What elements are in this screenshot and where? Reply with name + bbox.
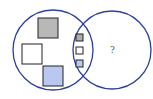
small-gray-square [76, 34, 83, 41]
unknown-question-mark: ? [110, 45, 115, 55]
small-blue-square [76, 60, 83, 67]
large-gray-square [38, 18, 58, 38]
venn-diagram: ? [0, 0, 153, 99]
large-blue-square [43, 66, 63, 86]
large-white-square [22, 44, 42, 64]
small-white-square [76, 47, 83, 54]
